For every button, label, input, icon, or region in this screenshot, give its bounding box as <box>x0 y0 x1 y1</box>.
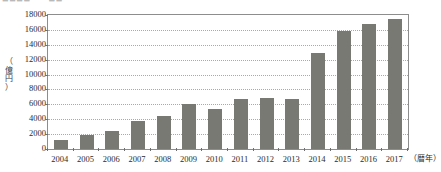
x-axis-tick-mark <box>304 148 305 151</box>
x-axis-tick-mark <box>381 148 382 151</box>
x-axis-tick-label: 2016 <box>356 153 382 167</box>
x-axis-tick-label: 2007 <box>124 153 150 167</box>
x-axis-tick-label: 2010 <box>201 153 227 167</box>
bar <box>234 99 248 149</box>
y-axis-tick-labels: 0200040006000800010000120001400016000180… <box>14 8 46 154</box>
x-axis-tick-mark <box>124 148 125 151</box>
y-axis-tick-label: 18000 <box>25 10 46 19</box>
bar-slot <box>125 15 151 149</box>
x-axis-tick-label: 2004 <box>47 153 73 167</box>
bar <box>260 98 274 149</box>
x-axis-tick-mark <box>73 148 74 151</box>
x-axis-tick-mark <box>253 148 254 151</box>
x-axis-tick-mark <box>176 148 177 151</box>
bar-slot <box>357 15 383 149</box>
x-axis-tick-label: 2008 <box>150 153 176 167</box>
x-axis-tick-mark <box>47 148 48 151</box>
bar-slot <box>74 15 100 149</box>
y-axis-tick-label: 10000 <box>25 69 46 78</box>
bar-slot <box>202 15 228 149</box>
plot-area <box>47 14 409 150</box>
y-axis-tick-label: 4000 <box>29 114 46 123</box>
x-axis-tick-labels: 2004200520062007200820092010201120122013… <box>47 153 407 167</box>
bar <box>80 135 94 149</box>
y-axis-tick-label: 12000 <box>25 54 46 63</box>
bar-slot <box>177 15 203 149</box>
y-axis-tick-label: 0 <box>42 144 46 153</box>
x-axis-tick-label: 2009 <box>176 153 202 167</box>
bar-slot <box>331 15 357 149</box>
bar <box>157 116 171 150</box>
x-axis-tick-mark <box>227 148 228 151</box>
x-axis-tick-label: 2015 <box>330 153 356 167</box>
bar <box>105 131 119 149</box>
x-axis-tick-mark <box>98 148 99 151</box>
bar-slot <box>254 15 280 149</box>
bar-slot <box>48 15 74 149</box>
y-axis-tick-label: 16000 <box>25 25 46 34</box>
bar-slot <box>228 15 254 149</box>
x-axis-tick-mark <box>150 148 151 151</box>
bar-slot <box>305 15 331 149</box>
bar-slot <box>99 15 125 149</box>
bar <box>208 109 222 149</box>
y-axis-tick-label: 14000 <box>25 40 46 49</box>
x-axis-tick-mark <box>407 148 408 151</box>
x-axis-tick-label: 2017 <box>381 153 407 167</box>
x-axis-tick-marks <box>47 148 407 152</box>
x-axis-tick-label: 2014 <box>304 153 330 167</box>
bar-slot <box>279 15 305 149</box>
x-axis-tick-label: 2011 <box>227 153 253 167</box>
x-axis-tick-label: 2005 <box>73 153 99 167</box>
x-axis-tick-mark <box>201 148 202 151</box>
bar <box>337 31 351 149</box>
x-axis-tick-mark <box>278 148 279 151</box>
bar-slot <box>382 15 408 149</box>
y-axis-tick-label: 8000 <box>29 84 46 93</box>
x-axis-tick-mark <box>356 148 357 151</box>
bar-slot <box>151 15 177 149</box>
x-axis-tick-label: 2006 <box>98 153 124 167</box>
bar-series <box>48 15 408 149</box>
bar <box>285 99 299 149</box>
y-axis-tick-label: 2000 <box>29 129 46 138</box>
bar <box>131 121 145 149</box>
y-axis-tick-label: 6000 <box>29 99 46 108</box>
bar <box>388 19 402 149</box>
x-axis-tick-mark <box>330 148 331 151</box>
bar <box>311 53 325 149</box>
bar <box>362 24 376 149</box>
x-axis-tick-label: 2012 <box>253 153 279 167</box>
bar <box>182 104 196 149</box>
x-axis-unit-label: （暦年） <box>409 153 441 165</box>
x-axis-tick-label: 2013 <box>278 153 304 167</box>
